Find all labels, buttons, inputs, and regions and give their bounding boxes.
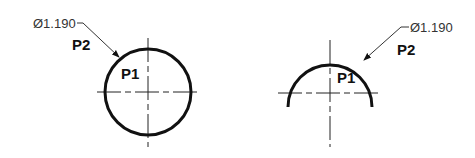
label-p2: P2 bbox=[397, 41, 415, 58]
diameter-dimension: Ø1.190 bbox=[410, 20, 453, 35]
figure-partial-arc: Ø1.190 P2 P1 bbox=[278, 20, 453, 147]
drawing-canvas: Ø1.190 P2 P1 Ø1.190 P2 P1 bbox=[0, 0, 475, 158]
label-p1: P1 bbox=[121, 65, 139, 82]
label-p2: P2 bbox=[72, 36, 90, 53]
label-p1: P1 bbox=[337, 69, 355, 86]
figure-full-circle: Ø1.190 P2 P1 bbox=[33, 16, 200, 147]
diameter-dimension: Ø1.190 bbox=[33, 16, 76, 31]
